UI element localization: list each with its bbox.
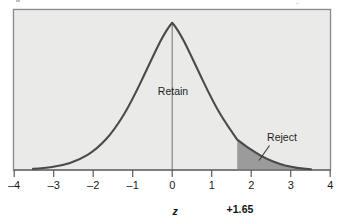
axis-tick-marks [14,170,330,177]
retain-label: Retain [152,85,194,97]
axis-tick-label-0: 0 [162,180,182,191]
axis-tick-label-1: 1 [202,180,222,191]
normal-distribution-figure: Retain Reject –4 –3 –2 –1 0 1 2 3 4 z +1… [0,0,341,224]
axis-tick-label-neg4: –4 [4,180,24,191]
axis-tick-label-3: 3 [281,180,301,191]
axis-tick-label-2: 2 [241,180,261,191]
reject-label: Reject [261,131,303,143]
axis-tick-label-neg3: –3 [44,180,64,191]
axis-title-z: z [165,205,185,217]
axis-tick-label-4: 4 [320,180,340,191]
axis-tick-label-neg2: –2 [83,180,103,191]
critical-value-label: +1.65 [214,203,266,215]
axis-tick-label-neg1: –1 [123,180,143,191]
